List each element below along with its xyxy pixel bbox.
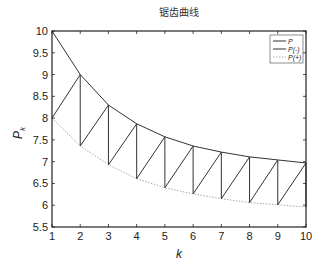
y-tick-label: 7 [42,156,48,168]
x-tick-label: 2 [77,230,83,242]
x-tick-label: 9 [275,230,281,242]
y-tick-label: 9.5 [33,47,48,59]
y-tick-label: 5.5 [33,221,48,233]
legend: PP(-)P(+) [270,35,303,63]
y-tick-label: 9 [42,69,48,81]
x-tick-label: 4 [134,230,140,242]
y-tick-label: 6 [42,199,48,211]
x-tick-label: 10 [300,230,312,242]
x-tick-label: 3 [105,230,111,242]
series-p [52,31,306,163]
legend-entry: P(+) [288,54,301,62]
legend-entry: P [288,38,293,45]
y-tick-label: 7.5 [33,134,48,146]
x-tick-label: 5 [162,230,168,242]
x-tick-label: 8 [246,230,252,242]
y-tick-label: 10 [36,25,48,37]
x-tick-label: 1 [49,230,55,242]
x-axis-label: k [176,247,183,261]
sawtooth-chart: 锯齿曲线 123456789105.566.577.588.599.510 k … [0,0,326,269]
y-tick-label: 8.5 [33,90,48,102]
legend-entry: P(-) [288,46,300,54]
y-tick-label: 6.5 [33,177,48,189]
chart-title: 锯齿曲线 [159,6,199,18]
series-p-minus [52,75,306,207]
x-tick-label: 6 [190,230,196,242]
x-tick-label: 7 [218,230,224,242]
y-tick-label: 8 [42,112,48,124]
plot-area [52,31,306,207]
axes-box [52,31,306,227]
y-axis-label: Pk [11,126,27,139]
